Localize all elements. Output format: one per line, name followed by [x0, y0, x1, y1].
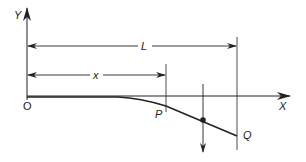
deflection-curve: [27, 97, 237, 136]
load-point-dot: [200, 117, 206, 123]
x-axis-label: X: [278, 100, 287, 112]
position-label: x: [92, 69, 99, 81]
y-axis-label: Y: [14, 9, 22, 21]
length-label: L: [141, 40, 147, 52]
y-axis: Y: [14, 8, 27, 100]
length-dimension: L: [28, 40, 236, 52]
point-q-label: Q: [243, 129, 252, 141]
origin-label: O: [23, 100, 32, 112]
beam-diagram: Y X O L x P Q: [0, 0, 306, 162]
position-dimension: x: [28, 69, 165, 81]
point-p-label: P: [155, 108, 163, 120]
